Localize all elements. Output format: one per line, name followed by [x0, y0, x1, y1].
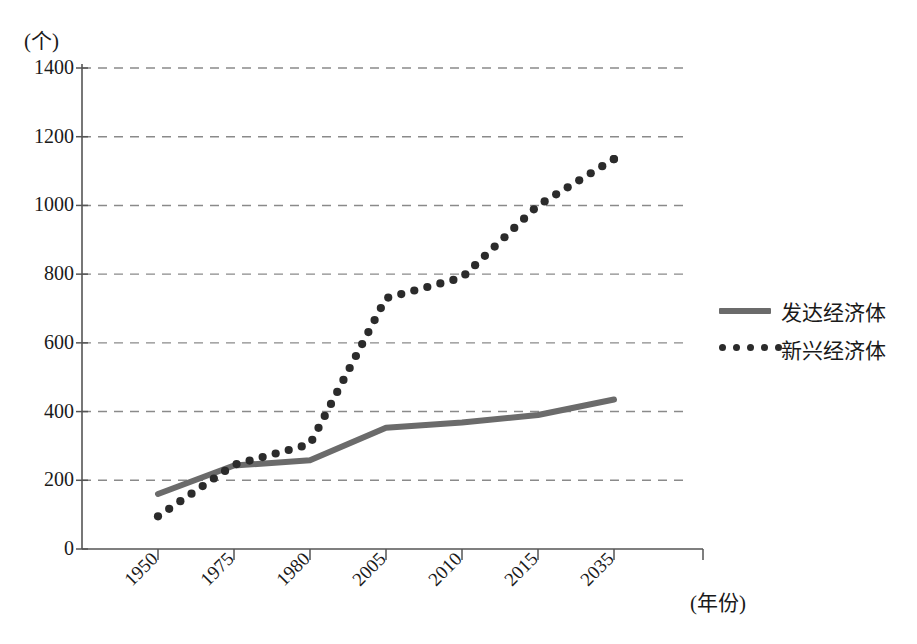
- legend-item-developed[interactable]: 发达经济体: [717, 292, 912, 330]
- legend-item-emerging[interactable]: 新兴经济体: [717, 330, 912, 368]
- chart-legend: 发达经济体 新兴经济体: [717, 292, 912, 368]
- legend-label-emerging: 新兴经济体: [781, 334, 886, 364]
- legend-label-developed: 发达经济体: [781, 296, 886, 326]
- y-axis-label: 1000: [34, 194, 74, 214]
- series-line-emerging: [154, 155, 618, 521]
- legend-dotted-line-icon: [717, 339, 773, 359]
- y-axis-label: 800: [44, 263, 74, 283]
- chart-container: (个) 0200400600800100012001400 1950197519…: [0, 0, 917, 644]
- y-axis-tick-labels: 0200400600800100012001400: [0, 0, 74, 644]
- y-axis-label: 1400: [34, 57, 74, 77]
- y-axis-label: 0: [64, 538, 74, 558]
- legend-solid-line-icon: [717, 301, 773, 321]
- y-axis-label: 1200: [34, 126, 74, 146]
- y-axis-label: 400: [44, 401, 74, 421]
- y-axis-label: 600: [44, 332, 74, 352]
- x-axis-title: (年份): [690, 586, 746, 616]
- y-axis-label: 200: [44, 469, 74, 489]
